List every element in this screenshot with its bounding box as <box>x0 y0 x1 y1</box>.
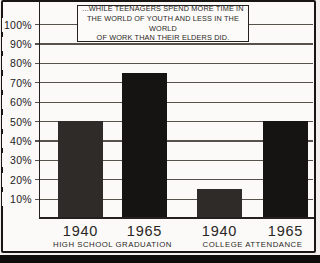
ytick-label-90%: 90% <box>2 37 35 51</box>
caption-line-1: ...WHILE TEENAGERS SPEND MORE TIME IN <box>82 4 243 14</box>
x-label-high-school-graduation-1940: 1940 <box>46 223 116 239</box>
ytick-label-40%: 40% <box>2 134 35 148</box>
caption-box: ...WHILE TEENAGERS SPEND MORE TIME IN TH… <box>77 5 249 42</box>
filmstrip-bottom-band <box>0 255 320 263</box>
ytick-label-50%: 50% <box>2 115 35 129</box>
caption-line-3: OF WORK THAN THEIR ELDERS DID. <box>97 33 230 43</box>
ytick-label-100%: 100% <box>2 18 35 32</box>
filmstrip-frame: 10%20%30%40%50%60%70%80%90%100%19401965H… <box>0 0 320 263</box>
bar-high-school-graduation-1940 <box>58 121 103 218</box>
ytick-label-80%: 80% <box>2 56 35 70</box>
x-label-college-attendance-1940: 1940 <box>185 223 255 239</box>
ytick-label-30%: 30% <box>2 153 35 167</box>
x-label-college-attendance-1965: 1965 <box>251 223 320 239</box>
ytick-label-10%: 10% <box>2 192 35 206</box>
ytick-label-20%: 20% <box>2 173 35 187</box>
group-label-college-attendance: COLLEGE ATTENDANCE <box>203 240 303 249</box>
gridline-80% <box>4 63 313 64</box>
bar-college-attendance-1940 <box>197 189 242 218</box>
bar-high-school-graduation-1965 <box>122 73 167 219</box>
x-axis-baseline <box>39 217 314 219</box>
gridline-90% <box>4 43 313 44</box>
y-axis-line <box>39 2 41 218</box>
bar-college-attendance-1965 <box>263 121 308 218</box>
x-label-high-school-graduation-1965: 1965 <box>110 223 180 239</box>
ytick-label-60%: 60% <box>2 95 35 109</box>
caption-line-2: THE WORLD OF YOUTH AND LESS IN THE WORLD <box>78 14 248 33</box>
ytick-label-70%: 70% <box>2 76 35 90</box>
group-label-high-school-graduation: HIGH SCHOOL GRADUATION <box>53 240 172 249</box>
